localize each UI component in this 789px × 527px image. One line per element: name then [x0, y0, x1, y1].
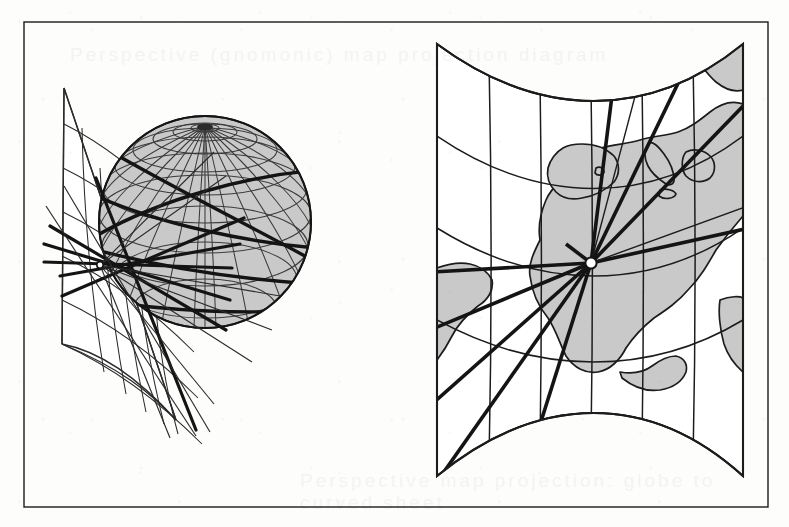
- panel-left-globe-and-surface: [44, 88, 318, 444]
- map-center-point: [585, 257, 596, 268]
- globe-north-pole: [197, 124, 213, 131]
- projection-convergence-point: [97, 262, 103, 268]
- panel-right-map-sheet: [430, 32, 749, 488]
- projection-diagram: [0, 0, 789, 527]
- scan-ghost-text-bottom: Perspective map projection: globe to cur…: [300, 470, 789, 514]
- scan-ghost-text-top: Perspective (gnomonic) map projection di…: [70, 44, 608, 66]
- figure-root: Perspective (gnomonic) map projection di…: [0, 0, 789, 527]
